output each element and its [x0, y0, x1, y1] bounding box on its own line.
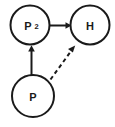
- node-p-label: P: [29, 91, 36, 103]
- node-h-label: H: [86, 20, 94, 32]
- diagram-canvas: P 2 H P: [0, 0, 115, 127]
- node-p[interactable]: P: [12, 75, 54, 117]
- edge-p-to-p2-arrowhead: [28, 45, 35, 51]
- node-h[interactable]: H: [71, 6, 110, 45]
- node-p2-subscript: 2: [35, 22, 39, 31]
- edge-p-to-h-arrowhead: [68, 46, 75, 53]
- edge-p-to-p2: [28, 45, 35, 75]
- diagram-svg: P 2 H P: [0, 0, 115, 127]
- node-p2-label: P: [24, 20, 31, 32]
- edge-p-to-h-line: [51, 51, 72, 80]
- node-p2[interactable]: P 2: [11, 6, 50, 45]
- edge-p2-to-h: [50, 22, 72, 29]
- edge-p-to-h: [51, 46, 76, 80]
